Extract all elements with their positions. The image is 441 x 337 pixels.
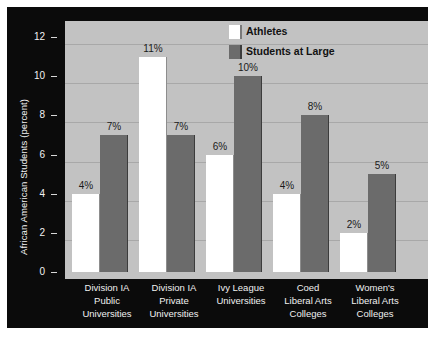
- y-axis-tick-label: 8: [19, 110, 45, 120]
- legend-item-athletes[interactable]: Athletes: [229, 23, 389, 40]
- bar-athletes-1: [139, 57, 167, 272]
- bar-value-label: 7%: [96, 121, 132, 132]
- category-label-line: Division IA: [70, 281, 144, 294]
- category-label-line: Liberal Arts: [338, 294, 412, 307]
- category-label-line: Public: [70, 294, 144, 307]
- x-axis-category-labels: Division IAPublicUniversitiesDivision IA…: [65, 281, 428, 335]
- bar-value-label: 10%: [230, 62, 266, 73]
- bar-athletes-0: [72, 194, 100, 272]
- y-axis-tick: [51, 76, 57, 77]
- category-label-2: Ivy LeagueUniversities: [204, 281, 278, 307]
- y-axis-tick-label: 0: [19, 267, 45, 277]
- bar-value-label: 7%: [163, 121, 199, 132]
- category-label-line: Colleges: [338, 307, 412, 320]
- chart-legend: AthletesStudents at Large: [229, 23, 389, 63]
- category-label-line: Universities: [204, 294, 278, 307]
- y-axis-tick: [51, 155, 57, 156]
- legend-swatch-icon: [229, 45, 242, 59]
- chart-panel: African American Students (percent) 1210…: [7, 7, 428, 328]
- y-axis-tick: [51, 272, 57, 273]
- y-axis-tick: [51, 233, 57, 234]
- bar-athletes-2: [206, 155, 234, 273]
- bar-value-label: 6%: [202, 141, 238, 152]
- bar-value-label: 8%: [297, 101, 333, 112]
- legend-label: Students at Large: [246, 46, 335, 57]
- category-label-line: Coed: [271, 281, 345, 294]
- bar-value-label: 2%: [336, 219, 372, 230]
- bar-athletes-3: [273, 194, 301, 272]
- category-label-4: Women'sLiberal ArtsColleges: [338, 281, 412, 320]
- bar-value-label: 5%: [364, 160, 400, 171]
- category-label-line: Universities: [137, 307, 211, 320]
- y-axis-tick-label: 12: [19, 32, 45, 42]
- category-label-line: Private: [137, 294, 211, 307]
- category-label-line: Colleges: [271, 307, 345, 320]
- bar-students-at-large-2: [234, 76, 262, 272]
- category-label-line: Ivy League: [204, 281, 278, 294]
- category-label-line: Universities: [70, 307, 144, 320]
- bar-students-at-large-4: [368, 174, 396, 272]
- legend-swatch-icon: [229, 25, 242, 39]
- y-axis-tick-label: 2: [19, 228, 45, 238]
- y-axis-tick-label: 10: [19, 71, 45, 81]
- bar-athletes-4: [340, 233, 368, 272]
- category-label-line: Division IA: [137, 281, 211, 294]
- category-label-3: CoedLiberal ArtsColleges: [271, 281, 345, 320]
- category-label-0: Division IAPublicUniversities: [70, 281, 144, 320]
- category-label-line: Women's: [338, 281, 412, 294]
- bar-value-label: 11%: [135, 43, 171, 54]
- category-label-line: Liberal Arts: [271, 294, 345, 307]
- y-axis-tick: [51, 194, 57, 195]
- y-axis-tick-label: 6: [19, 150, 45, 160]
- y-axis-tick: [51, 37, 57, 38]
- y-axis-tick-label: 4: [19, 189, 45, 199]
- chart-page: African American Students (percent) 1210…: [0, 0, 441, 337]
- bar-students-at-large-0: [100, 135, 128, 272]
- bar-students-at-large-1: [167, 135, 195, 272]
- legend-item-students-at-large[interactable]: Students at Large: [229, 43, 389, 60]
- bar-value-label: 4%: [68, 180, 104, 191]
- bar-value-label: 4%: [269, 180, 305, 191]
- legend-label: Athletes: [246, 26, 287, 37]
- category-label-1: Division IAPrivateUniversities: [137, 281, 211, 320]
- y-axis-tick: [51, 115, 57, 116]
- bar-students-at-large-3: [301, 115, 329, 272]
